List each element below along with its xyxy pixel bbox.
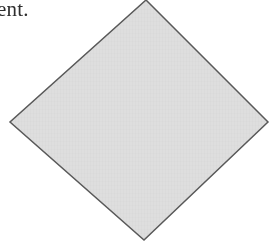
diamond-figure [0,0,278,246]
page-canvas: ient. [0,0,278,246]
clipped-text-fragment: ient. [0,0,29,20]
diamond-svg [0,0,278,246]
diamond-shape [10,0,268,240]
